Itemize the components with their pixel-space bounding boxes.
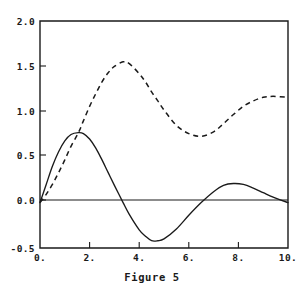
x-tick-label-0: 0. xyxy=(34,252,46,263)
y-tick-label-0-5: 0.5 xyxy=(17,150,35,161)
x-tick-label-6: 6. xyxy=(183,252,195,263)
x-tick-label-2: 2. xyxy=(83,252,95,263)
chart-plot: 2.0 1.5 1.0 0.5 0.0 -0.5 0. 2. 4. 6. 8. … xyxy=(0,0,304,292)
x-tick-label-10: 10. xyxy=(279,252,297,263)
x-tick-label-4: 4. xyxy=(133,252,145,263)
y-tick-label-1-0: 1.0 xyxy=(17,106,35,117)
figure-caption: Figure 5 xyxy=(124,271,179,283)
y-tick-label-2-0: 2.0 xyxy=(17,16,35,27)
figure-container: 2.0 1.5 1.0 0.5 0.0 -0.5 0. 2. 4. 6. 8. … xyxy=(0,0,304,292)
y-tick-label-1-5: 1.5 xyxy=(17,61,35,72)
x-tick-label-8: 8. xyxy=(232,252,244,263)
y-tick-label-neg-0-5: -0.5 xyxy=(11,243,35,254)
y-tick-label-0-0: 0.0 xyxy=(17,195,35,206)
